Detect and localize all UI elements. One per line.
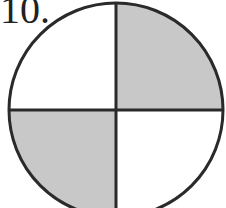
- quadrant-circle-figure: [0, 0, 226, 208]
- quadrant-bottom-left: [9, 110, 116, 208]
